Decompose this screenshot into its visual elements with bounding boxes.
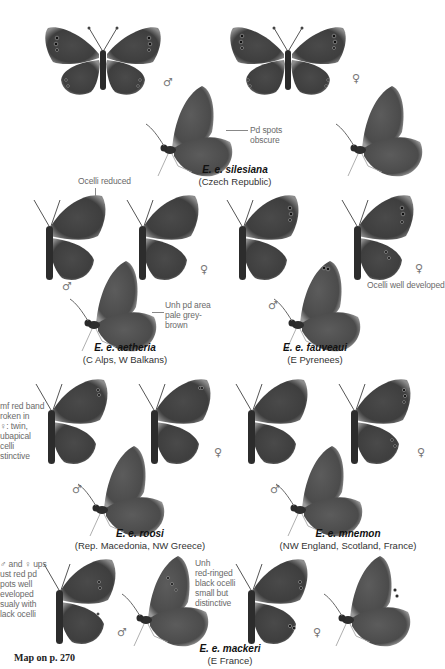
ocelli-markings — [0, 0, 437, 669]
